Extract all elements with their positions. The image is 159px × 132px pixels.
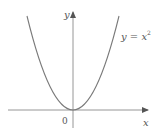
curve-equation-base: y = x [120,31,147,42]
y-axis-label: y [63,9,70,20]
origin-label: 0 [62,116,68,126]
curve-equation-exponent: 2 [147,29,151,36]
curve-equation-label: y = x2 [120,29,151,42]
parabola-graph: y x 0 y = x2 [0,0,159,132]
x-axis-label: x [143,117,149,128]
